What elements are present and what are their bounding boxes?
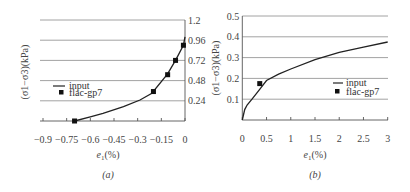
x-tick-label: 0: [183, 134, 188, 145]
chart-panel-a: 0.240.480.720.961.2−0.9−0.75−0.6−0.45−0.…: [19, 15, 206, 182]
panel-caption: (b): [309, 169, 321, 181]
y-tick-label: 0.1: [227, 94, 240, 105]
x-tick-label: 0: [240, 133, 245, 144]
gridlines: [40, 20, 185, 101]
x-tick-label: −0.75: [55, 134, 78, 145]
x-tick-label: 1: [288, 133, 293, 144]
x-tick-label: 2.5: [357, 133, 370, 144]
x-axis-label: e1(%): [97, 149, 120, 162]
y-axis-label: (σ1−σ3)(kPa): [210, 41, 222, 96]
y-tick-label: 0.24: [188, 95, 206, 106]
y-tick-label: 1.2: [188, 15, 201, 26]
x-tick-label: 1.5: [309, 133, 322, 144]
x-tick-label: −0.3: [129, 134, 147, 145]
y-tick-label: 0.72: [188, 55, 206, 66]
data-point-flac-gp7: [257, 81, 262, 86]
y-tick-label: 0.4: [227, 31, 240, 42]
data-point-flac-gp7: [165, 72, 170, 77]
legend: inputflac-gp7: [333, 77, 379, 97]
legend-square-marker-icon: [59, 90, 64, 95]
data-point-flac-gp7: [181, 43, 186, 48]
series-line-input: [75, 37, 185, 121]
x-tick-label: −0.6: [81, 134, 99, 145]
x-tick-label: 2: [337, 133, 342, 144]
y-tick-label: 0.48: [188, 75, 206, 86]
legend: inputflac-gp7: [53, 80, 102, 98]
x-tick-label: −0.45: [102, 134, 125, 145]
y-axis-label: (σ1−σ3)(kPa): [19, 45, 31, 100]
y-tick-label: 0.2: [227, 73, 240, 84]
chart-panel-b: 0.10.20.30.40.500.511.522.53inputflac-gp…: [210, 11, 390, 182]
legend-label-flac-gp7: flac-gp7: [69, 87, 102, 98]
data-point-flac-gp7: [72, 119, 77, 124]
x-axis-label: e1(%): [304, 149, 327, 162]
x-tick-label: 3: [385, 133, 390, 144]
x-tick-label: −0.15: [150, 134, 173, 145]
y-tick-label: 0.5: [227, 11, 240, 22]
panel-caption: (a): [102, 169, 114, 181]
figure: 0.240.480.720.961.2−0.9−0.75−0.6−0.45−0.…: [0, 0, 410, 192]
data-point-flac-gp7: [173, 58, 178, 63]
x-tick-label: −0.9: [34, 134, 52, 145]
y-tick-label: 0.3: [227, 52, 240, 63]
data-point-flac-gp7: [151, 89, 156, 94]
legend-label-flac-gp7: flac-gp7: [346, 86, 379, 97]
x-tick-label: 0.5: [260, 133, 273, 144]
y-tick-label: 0.96: [188, 35, 206, 46]
legend-square-marker-icon: [335, 89, 340, 94]
